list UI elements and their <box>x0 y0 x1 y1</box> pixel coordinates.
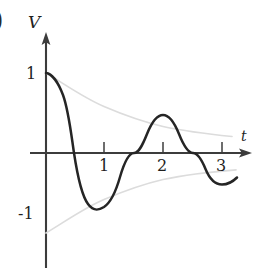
lower-envelope-curve <box>46 170 236 233</box>
y-tick-label-1: 1 <box>26 66 36 82</box>
y-tick-label-minus-1: -1 <box>18 206 34 222</box>
panel-label: ) <box>0 8 3 32</box>
x-tick-label-1: 1 <box>99 158 109 174</box>
y-axis-label: V <box>28 14 40 31</box>
damped-cosine-curve <box>46 73 237 210</box>
x-tick-label-3: 3 <box>216 158 226 174</box>
upper-envelope-curve <box>46 73 232 137</box>
x-tick-label-2: 2 <box>157 158 167 174</box>
figure-root: ) V t 1 -1 1 2 3 <box>0 0 265 268</box>
damped-oscillation-plot <box>0 0 265 268</box>
x-axis-label: t <box>241 129 247 143</box>
